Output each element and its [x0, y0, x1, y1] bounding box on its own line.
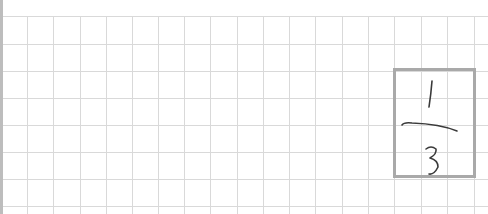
- fraction-bar: [402, 123, 457, 131]
- numerator-stroke-1: [429, 81, 432, 107]
- graph-paper-canvas[interactable]: [0, 0, 488, 214]
- handwritten-fraction: [402, 81, 457, 174]
- denominator-stroke-3: [426, 147, 438, 174]
- answer-box-layer: [0, 0, 488, 214]
